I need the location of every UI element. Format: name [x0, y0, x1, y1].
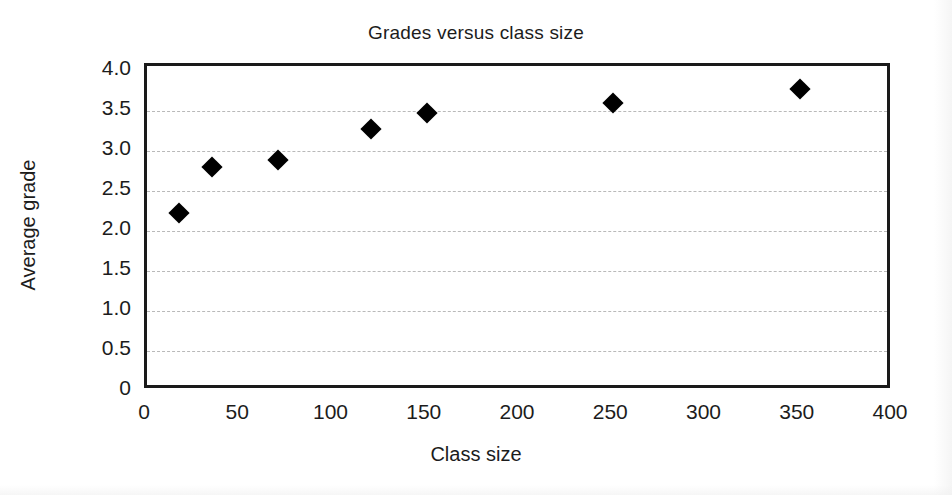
chart-figure: Grades versus class size Average grade 0… — [0, 0, 952, 495]
gridline — [147, 351, 887, 352]
y-axis-tick-labels: 00.51.01.52.02.53.03.54.0 — [0, 0, 131, 495]
data-point-marker — [789, 79, 810, 100]
x-tick-label: 400 — [872, 400, 907, 424]
x-tick-label: 50 — [226, 400, 249, 424]
chart-title: Grades versus class size — [0, 22, 952, 44]
plot-area — [144, 63, 890, 388]
x-tick-label: 300 — [686, 400, 721, 424]
y-tick-label: 0 — [119, 376, 131, 400]
data-point-marker — [267, 149, 288, 170]
gridline — [147, 151, 887, 152]
page-edge-shading-right — [934, 0, 952, 495]
x-tick-label: 250 — [593, 400, 628, 424]
page-edge-shading-bottom — [0, 485, 952, 495]
y-tick-label: 2.0 — [102, 216, 131, 240]
gridline — [147, 111, 887, 112]
y-tick-label: 0.5 — [102, 336, 131, 360]
gridline — [147, 231, 887, 232]
x-tick-label: 150 — [406, 400, 441, 424]
gridline — [147, 191, 887, 192]
gridline — [147, 311, 887, 312]
y-tick-label: 1.5 — [102, 256, 131, 280]
gridline — [147, 271, 887, 272]
x-tick-label: 200 — [499, 400, 534, 424]
data-point-marker — [202, 156, 223, 177]
data-point-marker — [360, 119, 381, 140]
x-tick-label: 0 — [138, 400, 150, 424]
data-point-marker — [416, 102, 437, 123]
y-tick-label: 3.0 — [102, 136, 131, 160]
x-tick-label: 350 — [779, 400, 814, 424]
y-tick-label: 3.5 — [102, 96, 131, 120]
y-tick-label: 2.5 — [102, 176, 131, 200]
y-tick-label: 4.0 — [102, 56, 131, 80]
y-tick-label: 1.0 — [102, 296, 131, 320]
x-axis-title: Class size — [0, 443, 952, 466]
data-point-marker — [168, 203, 189, 224]
x-tick-label: 100 — [313, 400, 348, 424]
